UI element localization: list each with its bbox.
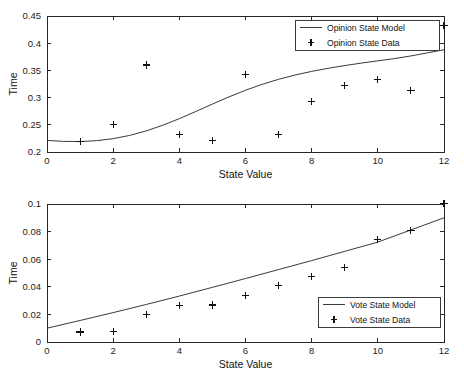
y-tick-label: 0.25 [23,119,42,130]
data-point-marker [407,87,414,94]
y-tick-label: 0.3 [28,92,41,103]
data-point-marker [143,311,150,318]
data-point-marker [209,137,216,144]
data-point-marker [76,138,83,145]
vote-state-plot: 02468101200.020.040.060.080.1State Value… [0,191,464,383]
opinion-state-plot: 0246810120.20.250.30.350.40.45State Valu… [0,0,464,192]
x-tick-label: 2 [111,345,116,356]
x-tick-label: 6 [243,155,248,166]
data-point-marker [374,76,381,83]
chart-legend: Vote State ModelVote State Data [318,297,440,327]
data-point-marker [76,328,83,335]
data-point-marker [308,273,315,280]
y-tick-label: 0 [36,336,41,347]
x-tick-label: 10 [373,345,384,356]
y-tick-label: 0.35 [23,65,42,76]
y-tick-label: 0.02 [23,309,42,320]
data-point-marker [407,227,414,234]
legend-label: Vote State Data [350,315,410,325]
legend-label: Vote State Model [350,300,416,310]
x-tick-label: 12 [439,155,450,166]
x-tick-label: 4 [177,155,182,166]
data-point-marker [242,71,249,78]
data-point-marker [374,236,381,243]
x-tick-label: 2 [111,155,116,166]
y-tick-label: 0.4 [28,38,41,49]
data-point-marker [209,301,216,308]
legend-label: Opinion State Model [327,23,405,33]
data-point-marker [275,131,282,138]
x-axis-label: State Value [219,168,273,180]
data-point-marker [176,302,183,309]
x-tick-label: 8 [309,345,314,356]
y-tick-label: 0.1 [28,198,41,209]
data-point-marker [176,131,183,138]
x-tick-label: 10 [373,155,384,166]
chart-legend: Opinion State ModelOpinion State Data [295,20,439,50]
x-tick-label: 0 [44,345,49,356]
y-tick-label: 0.2 [28,146,41,157]
chart-panel-opinion-state: 0246810120.20.250.30.350.40.45State Valu… [0,0,464,192]
x-tick-label: 6 [243,345,248,356]
y-axis-label: Time [7,72,19,95]
x-tick-label: 8 [309,155,314,166]
y-tick-label: 0.45 [23,10,42,21]
x-tick-label: 0 [44,155,49,166]
x-tick-label: 12 [439,345,450,356]
y-tick-label: 0.06 [23,254,42,265]
y-tick-label: 0.04 [23,281,42,292]
data-point-marker [242,292,249,299]
data-point-marker [110,328,117,335]
data-point-marker [341,82,348,89]
data-point-marker [275,282,282,289]
chart-panel-vote-state: 02468101200.020.040.060.080.1State Value… [0,191,464,383]
data-point-marker [143,61,150,68]
data-point-marker [308,98,315,105]
x-axis-label: State Value [219,358,273,370]
data-point-marker [341,264,348,271]
model-curve [47,50,444,142]
data-point-marker [440,200,447,207]
data-point-marker [440,22,447,29]
legend-label: Opinion State Data [327,38,400,48]
y-axis-label: Time [7,261,19,284]
figure-container: 0246810120.20.250.30.350.40.45State Valu… [0,0,464,383]
y-tick-label: 0.08 [23,226,42,237]
data-point-marker [110,121,117,128]
x-tick-label: 4 [177,345,182,356]
